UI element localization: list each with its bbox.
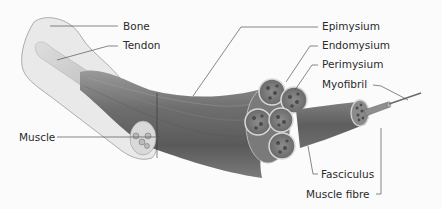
leader-line-endomysium: [286, 46, 318, 82]
leader-line-perimysium: [295, 65, 318, 90]
fasciculus-shape: [296, 100, 369, 148]
muscle-cross-section-small: [130, 121, 156, 155]
label-fasciculus: Fasciculus: [321, 168, 374, 180]
muscle-structure-diagram: Bone Tendon Epimysium Endomysium Perimys…: [0, 0, 442, 209]
leader-line-myofibril: [373, 85, 408, 100]
label-muscle: Muscle: [19, 131, 55, 143]
leader-line-muscle-fibre: [376, 128, 381, 194]
label-epimysium: Epimysium: [322, 20, 380, 32]
label-tendon: Tendon: [123, 39, 161, 51]
label-perimysium: Perimysium: [322, 58, 383, 70]
label-bone: Bone: [123, 20, 150, 32]
leader-line-fasciculus: [308, 146, 318, 174]
label-myofibril: Myofibril: [322, 78, 367, 90]
label-endomysium: Endomysium: [322, 39, 390, 51]
label-muscle-fibre: Muscle fibre: [306, 188, 370, 200]
muscle-fibre-shape: [364, 102, 391, 116]
